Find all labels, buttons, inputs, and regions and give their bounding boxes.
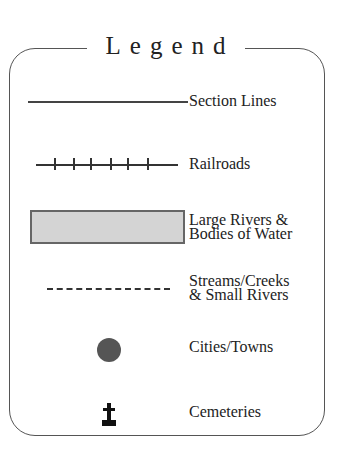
section-line-symbol xyxy=(28,101,188,103)
railroad-tick xyxy=(73,158,75,170)
railroad-tick xyxy=(90,158,92,170)
railroad-tick xyxy=(54,158,56,170)
water-symbol xyxy=(30,210,185,244)
streams-label-2: & Small Rivers xyxy=(189,287,289,302)
cemeteries-label: Cemeteries xyxy=(189,404,261,419)
railroad-line xyxy=(36,164,178,166)
railroad-tick xyxy=(147,158,149,170)
cities-label: Cities/Towns xyxy=(189,339,273,354)
section-lines-label: Section Lines xyxy=(189,93,277,108)
large-rivers-label-2: Bodies of Water xyxy=(189,226,292,241)
stream-dashed-symbol xyxy=(47,288,170,290)
railroads-label: Railroads xyxy=(189,156,250,171)
railroad-tick xyxy=(110,158,112,170)
cemetery-cross-icon xyxy=(102,403,116,426)
city-dot-icon xyxy=(97,338,121,362)
legend-title: Legend xyxy=(87,28,245,64)
railroad-tick xyxy=(127,158,129,170)
